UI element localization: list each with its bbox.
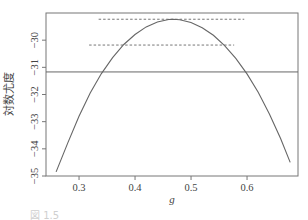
plot-frame	[46, 13, 298, 176]
x-tick-label: 0.5	[184, 182, 197, 193]
reference-lines	[46, 19, 298, 72]
y-tick-label: −32	[29, 86, 40, 102]
log-likelihood-chart: 0.30.40.50.6 −30−31−32−33−34−35 g 対数尤度	[0, 0, 308, 220]
x-axis-label: g	[169, 193, 175, 205]
y-tick-label: −31	[29, 59, 40, 75]
log-likelihood-curve	[56, 19, 290, 172]
y-axis-label: 対数尤度	[2, 72, 16, 116]
x-tick-label: 0.4	[128, 182, 142, 193]
y-tick-label: −35	[29, 168, 40, 184]
x-tick-label: 0.6	[240, 182, 253, 193]
y-tick-label: −34	[29, 140, 40, 157]
x-tick-label: 0.3	[72, 182, 85, 193]
y-axis: −30−31−32−33−34−35	[29, 32, 46, 184]
figure-caption: 図 1.5	[30, 207, 290, 220]
y-tick-label: −33	[29, 113, 40, 129]
y-tick-label: −30	[29, 32, 40, 48]
x-axis: 0.30.40.50.6	[72, 176, 253, 193]
